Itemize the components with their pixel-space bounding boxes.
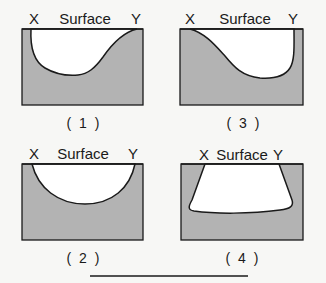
label-y: Y — [128, 145, 138, 162]
label-y: Y — [273, 146, 283, 163]
panel-caption: ( 2 ) — [67, 250, 102, 266]
panel-2: X Surface Y ( 2 ) — [22, 145, 143, 266]
label-y: Y — [288, 10, 298, 27]
label-x: X — [29, 10, 39, 27]
label-surface: Surface — [219, 10, 271, 27]
panel-caption: ( 4 ) — [226, 250, 261, 266]
label-surface: Surface — [57, 145, 109, 162]
label-y: Y — [131, 10, 141, 27]
panel-caption: ( 3 ) — [227, 115, 262, 131]
label-x: X — [199, 146, 209, 163]
panel-3: X Surface Y ( 3 ) — [180, 10, 303, 131]
label-x: X — [185, 10, 195, 27]
panel-caption: ( 1 ) — [67, 115, 102, 131]
diagram-canvas: X Surface Y ( 1 ) X Surface Y ( 3 ) X Su… — [0, 0, 326, 283]
cavity-shape — [189, 164, 292, 213]
label-x: X — [29, 145, 39, 162]
panel-1: X Surface Y ( 1 ) — [22, 10, 143, 131]
label-surface: Surface — [216, 146, 268, 163]
panel-4: X Surface Y ( 4 ) — [181, 146, 303, 266]
label-surface: Surface — [59, 10, 111, 27]
